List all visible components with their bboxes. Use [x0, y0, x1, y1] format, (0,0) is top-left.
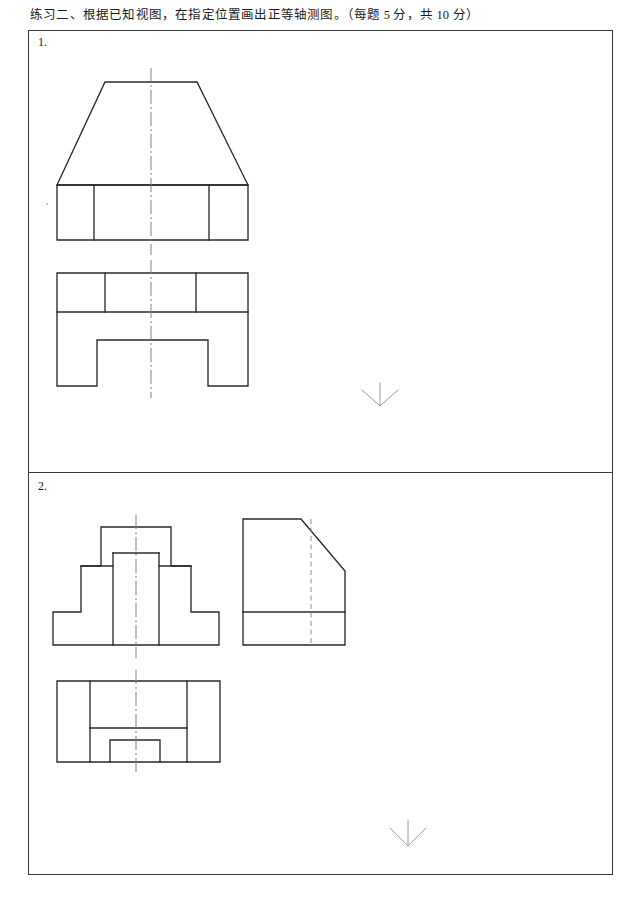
problem-divider	[28, 472, 613, 473]
problem-1-number: 1.	[38, 35, 47, 50]
problem-2-number: 2.	[38, 479, 47, 494]
scan-speck	[46, 203, 48, 205]
exercise-heading: 练习二、根据已知视图，在指定位置画出正等轴测图。（每题 5 分，共 10 分）	[30, 6, 479, 24]
exercise-frame	[28, 30, 613, 875]
